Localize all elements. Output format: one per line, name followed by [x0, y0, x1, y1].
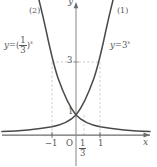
curve-y-equals-one-third-to-the-x	[39, 0, 150, 132]
curve-y-equals-3-to-the-x	[2, 0, 113, 132]
equation-left-exponent: x	[30, 39, 33, 45]
equation-left-prefix: y=	[4, 40, 16, 50]
x-axis-label: x	[143, 138, 148, 147]
one-third-denominator: 3	[79, 149, 86, 158]
exponential-graph-figure: y x (2) (1) y=( 1 3 )x y=3x 3 1 O −1 1 1…	[0, 0, 157, 167]
curve-tag-right: (1)	[117, 7, 128, 15]
tick-label-y-three: 3	[67, 56, 72, 65]
axes	[2, 2, 150, 166]
equation-left-fraction: 1 3	[19, 36, 26, 54]
y-axis-arrow-icon	[74, 2, 79, 8]
y-axis-label: y	[68, 0, 73, 6]
tick-label-x-one-third: 1 3	[79, 139, 86, 157]
tick-label-y-one: 1	[68, 107, 73, 116]
origin-label: O	[66, 139, 73, 148]
equation-right-prefix: y=	[110, 40, 122, 50]
tick-label-x-one: 1	[98, 139, 103, 148]
equation-right-exponent: x	[127, 39, 130, 45]
tick-label-x-neg-one: −1	[45, 139, 58, 148]
one-third-fraction: 1 3	[79, 139, 86, 157]
equation-right: y=3x	[110, 40, 130, 49]
equation-left: y=( 1 3 )x	[4, 36, 33, 54]
curve-tag-left: (2)	[29, 7, 40, 15]
equation-left-denominator: 3	[19, 46, 26, 55]
